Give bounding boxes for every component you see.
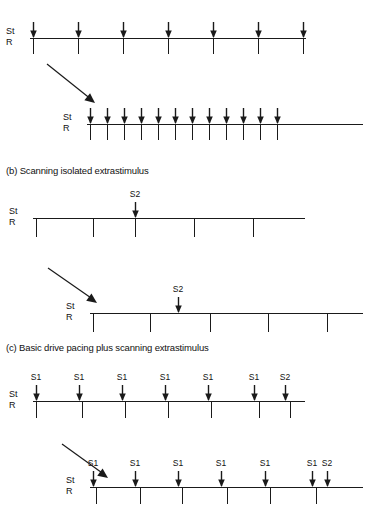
panel-heading-b: (b) Scanning isolated extrastimulus xyxy=(6,165,149,176)
response-tick xyxy=(268,313,269,332)
response-tick xyxy=(96,487,97,504)
stimulus-label: S2 xyxy=(280,373,290,382)
stimulus-arrow-icon xyxy=(209,22,218,38)
response-tick xyxy=(277,124,278,140)
stimulus-arrow-icon xyxy=(171,108,180,124)
stimulus-arrow-icon xyxy=(120,108,129,124)
response-tick xyxy=(123,38,124,54)
stimulus-arrow-icon xyxy=(250,385,259,401)
response-channel-label: R xyxy=(66,486,75,497)
response-tick xyxy=(316,487,317,504)
transition-arrow-icon xyxy=(43,60,99,107)
response-tick xyxy=(226,124,227,140)
response-tick xyxy=(78,38,79,54)
response-channel-label: R xyxy=(9,400,18,411)
channel-labels: StR xyxy=(9,206,18,228)
stimulus-label: S2 xyxy=(173,285,183,294)
response-tick xyxy=(194,218,195,237)
stimulus-arrow-icon xyxy=(154,108,163,124)
stimulus-channel-label: St xyxy=(6,26,15,37)
response-tick xyxy=(168,401,169,418)
stimulus-arrow-icon xyxy=(323,471,332,487)
stimulus-label: S2 xyxy=(130,190,140,199)
response-tick xyxy=(209,124,210,140)
stimulus-arrow-icon xyxy=(308,471,317,487)
response-channel-label: R xyxy=(6,37,15,48)
response-tick xyxy=(150,313,151,332)
response-tick xyxy=(90,124,91,140)
panel-heading-c: (c) Basic drive pacing plus scanning ext… xyxy=(6,342,209,353)
response-tick xyxy=(141,124,142,140)
response-tick xyxy=(192,124,193,140)
response-tick xyxy=(168,38,169,54)
response-tick xyxy=(259,401,260,418)
stimulus-arrow-icon xyxy=(254,22,263,38)
stimulus-arrow-icon xyxy=(131,471,140,487)
stimulus-arrow-icon xyxy=(74,22,83,38)
stimulus-arrow-icon xyxy=(205,108,214,124)
response-tick xyxy=(303,38,304,54)
response-channel-label: R xyxy=(66,312,75,323)
stimulus-label: S1 xyxy=(173,459,183,468)
stimulus-arrow-icon xyxy=(103,108,112,124)
stimulus-arrow-icon xyxy=(137,108,146,124)
stimulus-label: S1 xyxy=(249,373,259,382)
stimulus-arrow-icon xyxy=(261,471,270,487)
response-tick xyxy=(175,124,176,140)
stimulus-arrow-icon xyxy=(174,471,183,487)
stimulus-arrow-icon xyxy=(174,297,183,313)
stimulus-arrow-icon xyxy=(86,108,95,124)
baseline xyxy=(33,218,305,219)
baseline xyxy=(33,401,305,402)
stimulus-arrow-icon xyxy=(204,385,213,401)
response-tick xyxy=(82,401,83,418)
response-tick xyxy=(327,313,328,332)
response-tick xyxy=(36,401,37,418)
transition-arrow-icon xyxy=(44,264,101,307)
transition-arrow-icon xyxy=(58,440,112,482)
stimulus-label: S2 xyxy=(322,459,332,468)
response-tick xyxy=(211,401,212,418)
stimulus-label: S1 xyxy=(216,459,226,468)
response-tick xyxy=(124,124,125,140)
response-tick xyxy=(213,38,214,54)
response-channel-label: R xyxy=(9,217,18,228)
response-tick xyxy=(140,487,141,504)
stimulus-arrow-icon xyxy=(164,22,173,38)
stimulus-label: S1 xyxy=(74,373,84,382)
response-tick xyxy=(125,401,126,418)
response-tick xyxy=(258,38,259,54)
stimulus-label: S1 xyxy=(31,373,41,382)
stimulus-arrow-icon xyxy=(299,22,308,38)
stimulus-label: S1 xyxy=(117,373,127,382)
stimulus-arrow-icon xyxy=(239,108,248,124)
response-tick xyxy=(210,313,211,332)
response-tick xyxy=(93,218,94,237)
channel-labels: StR xyxy=(63,112,72,134)
response-tick xyxy=(33,38,34,54)
stimulus-arrow-icon xyxy=(131,202,140,218)
stimulus-label: S1 xyxy=(130,459,140,468)
stimulus-arrow-icon xyxy=(222,108,231,124)
stimulus-arrow-icon xyxy=(256,108,265,124)
response-tick xyxy=(290,401,291,418)
stimulus-arrow-icon xyxy=(75,385,84,401)
stimulus-arrow-icon xyxy=(188,108,197,124)
response-tick xyxy=(107,124,108,140)
baseline xyxy=(87,124,363,125)
stimulus-arrow-icon xyxy=(119,22,128,38)
channel-labels: StR xyxy=(9,389,18,411)
stimulus-arrow-icon xyxy=(118,385,127,401)
stimulus-arrow-icon xyxy=(32,385,41,401)
stimulus-arrow-icon xyxy=(29,22,38,38)
response-tick xyxy=(253,218,254,237)
stimulus-arrow-icon xyxy=(281,385,290,401)
stimulus-label: S1 xyxy=(160,373,170,382)
response-tick xyxy=(260,124,261,140)
response-tick xyxy=(36,218,37,237)
response-tick xyxy=(243,124,244,140)
baseline xyxy=(90,313,363,314)
response-tick xyxy=(93,313,94,332)
stimulus-channel-label: St xyxy=(9,206,18,217)
response-channel-label: R xyxy=(63,123,72,134)
